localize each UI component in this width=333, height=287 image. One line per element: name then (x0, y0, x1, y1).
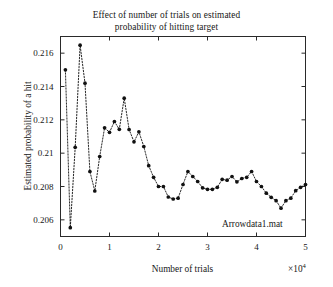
data-point-marker (255, 180, 259, 184)
data-point-marker (78, 43, 82, 47)
x-tick-label: 2 (156, 242, 161, 252)
x-axis-exponent: ×104 (288, 264, 306, 274)
data-point-marker (250, 170, 254, 174)
x-tick-label: 5 (303, 242, 308, 252)
data-point-marker (93, 189, 97, 193)
data-point-marker (235, 180, 239, 184)
data-point-marker (147, 164, 151, 168)
data-point-marker (260, 185, 264, 189)
y-axis-label: Estimated probability of a hit (23, 41, 33, 231)
data-point-marker (304, 183, 308, 187)
series-annotation: Arrowdata1.mat (222, 219, 283, 229)
data-point-marker (166, 195, 170, 199)
data-point-marker (142, 145, 146, 149)
data-point-marker (68, 226, 72, 230)
data-point-marker (191, 175, 195, 179)
data-point-marker (196, 180, 200, 184)
data-point-marker (225, 178, 229, 182)
data-point-marker (176, 196, 180, 200)
data-point-marker (220, 177, 224, 181)
data-point-marker (103, 126, 107, 130)
data-point-marker (137, 130, 141, 134)
y-tick-label: 0.21 (38, 148, 54, 158)
data-point-marker (274, 199, 278, 203)
x-tick-label: 3 (205, 242, 210, 252)
data-point-marker (98, 155, 102, 159)
data-point-marker (152, 175, 156, 179)
plot-canvas: 0.2060.2080.210.2120.2140.216012345 (0, 0, 333, 287)
data-point-marker (284, 199, 288, 203)
x-tick-label: 4 (254, 242, 259, 252)
x-axis-exponent-base: ×10 (288, 264, 303, 274)
data-point-marker (240, 177, 244, 181)
y-tick-label: 0.206 (33, 215, 54, 225)
x-tick-label: 0 (58, 242, 63, 252)
data-point-marker (186, 170, 190, 174)
series-line (65, 45, 305, 228)
data-point-marker (113, 120, 117, 124)
data-point-marker (245, 175, 249, 179)
data-point-marker (211, 187, 215, 191)
y-tick-label: 0.216 (33, 48, 54, 58)
data-point-marker (127, 128, 131, 132)
data-point-marker (206, 187, 210, 191)
chart-figure: Effect of number of trials on estimated … (0, 0, 333, 287)
x-axis-label: Number of trials (60, 264, 305, 274)
x-axis-exponent-power: 4 (303, 262, 306, 269)
plot-frame (61, 37, 306, 237)
data-point-marker (73, 145, 77, 149)
data-point-marker (279, 206, 283, 210)
data-point-marker (117, 127, 121, 131)
data-point-marker (122, 96, 126, 100)
data-point-marker (108, 130, 112, 134)
x-tick-label: 1 (107, 242, 112, 252)
data-point-marker (171, 197, 175, 201)
data-point-marker (181, 183, 185, 187)
data-point-marker (215, 185, 219, 189)
data-point-marker (230, 175, 234, 179)
data-point-marker (289, 196, 293, 200)
data-point-marker (88, 170, 92, 174)
data-point-marker (264, 191, 268, 195)
data-point-marker (162, 185, 166, 189)
data-point-marker (157, 185, 161, 189)
data-point-marker (64, 68, 68, 72)
data-point-marker (201, 186, 205, 190)
data-point-marker (294, 189, 298, 193)
data-point-marker (299, 185, 303, 189)
data-point-marker (269, 195, 273, 199)
y-tick-label: 0.214 (33, 82, 54, 92)
y-tick-label: 0.212 (33, 115, 53, 125)
y-tick-label: 0.208 (33, 182, 54, 192)
data-point-marker (132, 140, 136, 144)
data-point-marker (83, 81, 87, 85)
